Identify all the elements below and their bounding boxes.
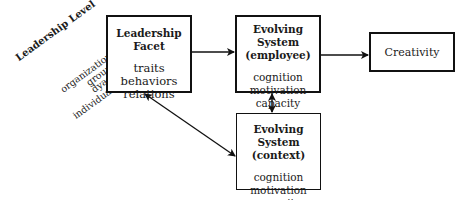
creativity-box: Creativity [369,32,455,72]
creativity-label: Creativity [384,46,439,59]
employee-item: capacity [237,97,319,110]
leadership-level-label: Leadership Level organization group dyad… [8,30,118,120]
employee-item: motivation [237,84,319,97]
leadership-facet-box: Leadership Facet traits behaviors relati… [106,15,192,93]
evolving-system-employee-box: Evolving System (employee) cognition mot… [235,15,321,93]
context-item: cognition [237,171,320,184]
employee-item: cognition [237,71,319,84]
context-item: capacity [237,197,320,200]
facet-item: relations [108,88,190,101]
evolving-system-context-box: Evolving System (context) cognition moti… [236,113,321,190]
context-title-line1: Evolving System [237,123,320,149]
context-item: motivation [237,184,320,197]
context-title-line2: (context) [237,149,320,162]
employee-title-line2: (employee) [237,49,319,62]
leadership-facet-title: Leadership Facet [108,27,190,53]
employee-title-line1: Evolving System [237,23,319,49]
arrow-facet-context [145,94,235,156]
